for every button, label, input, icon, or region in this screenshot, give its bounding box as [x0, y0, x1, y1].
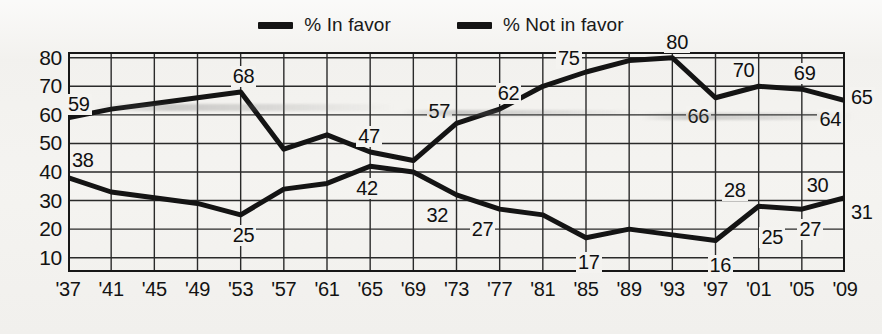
- data-point-label: 17: [576, 252, 602, 273]
- y-tick-label: 20: [6, 217, 62, 241]
- data-point-label: 25: [759, 227, 785, 248]
- x-tick-label: '57: [271, 278, 296, 301]
- x-tick-label: '05: [789, 278, 814, 301]
- legend-entry-not-in-favor: % Not in favor: [457, 14, 624, 36]
- data-point-label: 42: [354, 178, 380, 199]
- data-point-label: 47: [356, 126, 382, 147]
- x-tick-label: '89: [617, 278, 642, 301]
- x-tick-label: '53: [228, 278, 253, 301]
- x-tick-label: '01: [746, 278, 771, 301]
- plot-area: [68, 52, 845, 272]
- data-point-label: 66: [686, 106, 712, 127]
- data-point-label: 25: [231, 225, 257, 246]
- x-tick-label: '77: [487, 278, 512, 301]
- data-point-label: 80: [664, 32, 690, 53]
- data-point-label: 69: [792, 63, 818, 84]
- chart-svg: [68, 52, 845, 272]
- data-point-label: 38: [70, 150, 96, 171]
- x-tick-label: '73: [444, 278, 469, 301]
- data-point-label: 30: [805, 175, 831, 196]
- x-tick-label: '97: [703, 278, 728, 301]
- y-tick-label: 60: [6, 103, 62, 127]
- data-point-label: 65: [849, 87, 875, 108]
- x-tick-label: '37: [55, 278, 80, 301]
- y-tick-label: 50: [6, 131, 62, 155]
- data-point-label: 27: [797, 219, 823, 240]
- x-tick-label: '69: [401, 278, 426, 301]
- x-tick-label: '65: [358, 278, 383, 301]
- x-tick-label: '93: [660, 278, 685, 301]
- x-tick-label: '81: [530, 278, 555, 301]
- y-tick-label: 10: [6, 246, 62, 270]
- data-point-label: 27: [470, 219, 496, 240]
- data-point-label: 62: [496, 83, 522, 104]
- chart-screenshot: % In favor % Not in favor 80706050403020…: [0, 0, 882, 334]
- x-tick-label: '49: [185, 278, 210, 301]
- data-point-label: 31: [849, 202, 875, 223]
- data-point-label: 16: [708, 255, 734, 276]
- data-point-label: 28: [722, 180, 748, 201]
- x-tick-label: '45: [142, 278, 167, 301]
- legend-label-in-favor: % In favor: [304, 14, 391, 36]
- y-tick-label: 30: [6, 189, 62, 213]
- x-tick-label: '61: [314, 278, 339, 301]
- x-tick-label: '09: [832, 278, 857, 301]
- data-point-label: 68: [231, 66, 257, 87]
- y-tick-label: 40: [6, 160, 62, 184]
- legend-swatch-not-in-favor: [457, 22, 492, 29]
- x-axis: '37'41'45'49'53'57'61'65'69'73'77'81'85'…: [68, 278, 845, 310]
- data-point-label: 57: [427, 101, 453, 122]
- legend-label-not-in-favor: % Not in favor: [503, 14, 624, 36]
- x-tick-label: '41: [99, 278, 124, 301]
- data-point-label: 64: [817, 109, 843, 130]
- y-tick-label: 80: [6, 46, 62, 70]
- data-point-label: 32: [425, 205, 451, 226]
- legend-entry-in-favor: % In favor: [258, 14, 391, 36]
- data-point-label: 70: [731, 60, 757, 81]
- y-axis: 8070605040302010: [0, 52, 62, 272]
- data-point-label: 75: [556, 48, 582, 69]
- legend-swatch-in-favor: [258, 22, 293, 29]
- grid-lines: [68, 52, 845, 272]
- chart-legend: % In favor % Not in favor: [0, 10, 882, 40]
- x-tick-label: '85: [573, 278, 598, 301]
- data-point-label: 59: [66, 94, 92, 115]
- y-tick-label: 70: [6, 74, 62, 98]
